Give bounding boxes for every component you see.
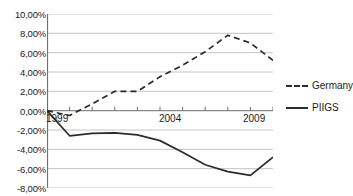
y-axis-tick-label: 0,00% bbox=[20, 105, 46, 116]
y-axis-tick-label: 6,00% bbox=[20, 47, 46, 58]
y-axis-tick-label: -4,00% bbox=[17, 144, 46, 155]
y-axis-tick-label: 2,00% bbox=[20, 86, 46, 97]
y-axis-tick-label: 8,00% bbox=[20, 28, 46, 39]
legend: GermanyPIIGS bbox=[286, 74, 351, 118]
x-axis-tick-label: 2009 bbox=[243, 113, 265, 124]
legend-item[interactable]: PIIGS bbox=[286, 96, 351, 118]
plot-svg bbox=[47, 14, 273, 188]
y-axis: 10,00%8,00%6,00%4,00%2,00%0,00%-2,00%-4,… bbox=[0, 0, 46, 196]
legend-item-label: Germany bbox=[312, 80, 353, 91]
y-axis-tick-label: -6,00% bbox=[17, 163, 46, 174]
series-line-germany bbox=[47, 35, 273, 115]
legend-item-label: PIIGS bbox=[312, 102, 339, 113]
y-axis-tick-label: -2,00% bbox=[17, 125, 46, 136]
x-axis-tick-label: 2004 bbox=[159, 113, 181, 124]
y-axis-tick-label: 10,00% bbox=[15, 9, 46, 20]
legend-swatch-solid-icon bbox=[286, 102, 308, 112]
y-axis-tick-label: 4,00% bbox=[20, 67, 46, 78]
legend-item[interactable]: Germany bbox=[286, 74, 351, 96]
plot-area bbox=[47, 14, 273, 188]
legend-swatch-dashed-icon bbox=[286, 80, 308, 90]
y-axis-tick-label: -8,00% bbox=[17, 183, 46, 194]
x-axis-tick-label: 1999 bbox=[46, 113, 68, 124]
